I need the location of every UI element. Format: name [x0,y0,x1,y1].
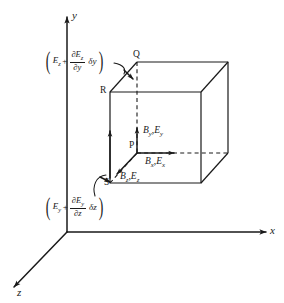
field-label-x: Bx,Ex [145,157,165,169]
y-axis-label: y [72,10,77,21]
field-label-z: Bz,Ez [120,172,139,184]
annotation-bottom-derivative: ( Ey + ∂Ey ∂z δz ) [44,196,106,218]
close-paren-bottom: ) [99,198,104,216]
field-label-y: By,Ey [143,126,163,138]
vertex-label-p: P [129,141,134,151]
vertex-label-q: Q [133,50,140,60]
numerator-top: ∂Ez [70,50,85,63]
plus-bottom: + [63,202,68,212]
open-paren-bottom: ( [46,198,51,216]
numerator-bottom: ∂Ey [70,196,85,209]
vertex-label-r: R [100,86,106,96]
plus-top: + [62,56,67,66]
fraction-top: ∂Ez ∂y [70,50,85,72]
cube-receding-edge-top-right [201,62,228,92]
cube-receding-edge-top-left [110,62,137,92]
close-paren-top: ) [99,52,104,70]
denominator-top: ∂y [73,63,81,72]
term-top: Ez [53,55,61,67]
cube-receding-edge-bottom-right [201,153,228,183]
annotation-top-derivative: ( Ez + ∂Ez ∂y δy ) [44,50,105,72]
top-leader-curve [114,63,125,74]
x-axis-label: x [270,225,275,236]
open-paren-top: ( [46,52,51,70]
term-bottom: Ey [53,201,61,213]
diagram-canvas [0,0,284,303]
delta-bottom: δz [89,202,97,212]
cube-back-face-visible [137,62,228,153]
fraction-bottom: ∂Ey ∂z [70,196,85,218]
denominator-bottom: ∂z [74,209,82,218]
cube-element [110,62,228,183]
vertex-label-s: S [104,178,109,188]
delta-top: δy [88,56,96,66]
z-axis-line [14,232,67,287]
field-cube-diagram: y x z Q R P S By,Ey Bx,Ex Bz,Ez ( Ez + ∂… [0,0,284,303]
z-axis-label: z [17,287,21,298]
